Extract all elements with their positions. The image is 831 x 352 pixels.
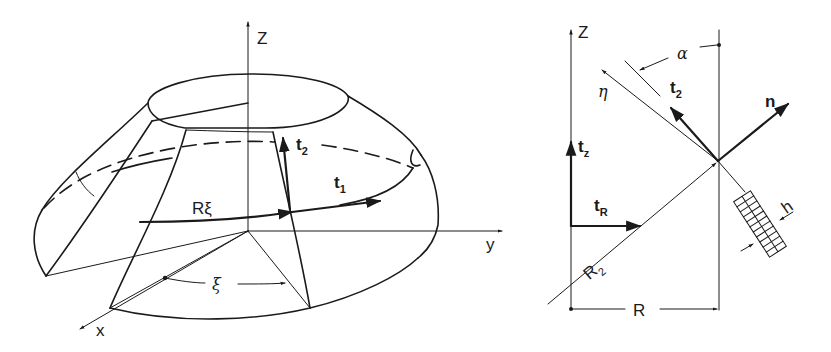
h-arrow-bottom [741, 244, 753, 251]
right-t2-vector [671, 108, 718, 161]
base-radius-front-right [248, 231, 310, 308]
r-xi-label: Rξ [192, 199, 212, 218]
r2-label: R2 [580, 257, 608, 286]
z-axis-label: Z [257, 29, 267, 48]
r-label: R [633, 301, 645, 320]
segment-left-edge [110, 130, 186, 308]
segment-top-arc [186, 130, 273, 132]
cut-face-band [76, 172, 94, 196]
cut-face-outer [34, 210, 46, 276]
right-diagram: Z α η t2 n R2 [548, 23, 797, 320]
xi-label: ξ [212, 275, 222, 294]
r-xi-arc [140, 212, 292, 222]
left-diagram: Z y x t2 t1 Rξ ξ [34, 22, 502, 340]
y-axis-label: y [486, 235, 495, 254]
xi-arc-left [165, 278, 205, 283]
parallel-circle-visible [112, 158, 172, 172]
t2-label: t2 [296, 135, 308, 157]
tangent-parallel-line [625, 61, 660, 96]
h-label: h [778, 197, 797, 218]
xi-arc-right [238, 283, 285, 284]
base-front-rim [110, 258, 418, 319]
n-label: n [765, 92, 775, 111]
figure-canvas: Z y x t2 t1 Rξ ξ Z α η t2 [0, 0, 831, 352]
x-axis-label: x [96, 321, 105, 340]
alpha-dot [717, 43, 721, 47]
eta-meridian-line [602, 70, 718, 161]
t1-vector [292, 201, 380, 212]
tr-label: tR [594, 196, 608, 218]
base-radius-front-left [110, 231, 248, 308]
eta-label: η [598, 82, 608, 101]
alpha-arrow [640, 58, 668, 70]
right-t2-label: t2 [670, 78, 682, 100]
alpha-leader [700, 45, 717, 47]
wall-mid-line [718, 161, 745, 192]
right-bulge [418, 155, 438, 258]
r2-line [548, 163, 716, 304]
alpha-label: α [677, 44, 688, 63]
tz-label: tz [578, 137, 590, 159]
t1-label: t1 [334, 173, 346, 195]
n-vector [718, 104, 788, 161]
segment-right-edge [273, 132, 310, 308]
right-z-label: Z [578, 23, 588, 42]
parallel-circle-front [340, 168, 413, 205]
hidden-parallel-circle-right [322, 145, 413, 168]
cone-left-silhouette [42, 103, 148, 210]
base-radius-left [46, 231, 248, 276]
t2-vector [283, 138, 290, 210]
shell-diagram: Z y x t2 t1 Rξ ξ Z α η t2 [0, 0, 831, 352]
x-axis [80, 231, 248, 329]
hidden-parallel-circle [44, 141, 275, 208]
cone-right-silhouette [348, 96, 421, 155]
cut-face-top [152, 103, 248, 121]
